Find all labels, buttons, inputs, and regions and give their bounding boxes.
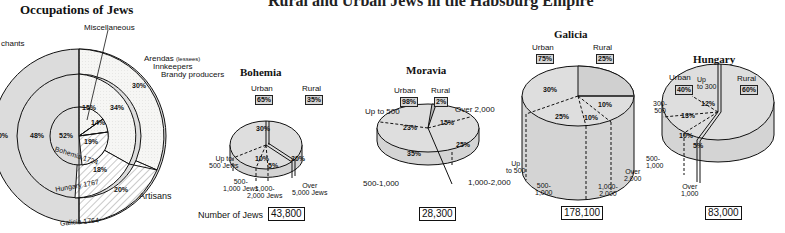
bohemia-rural-pct: 35% bbox=[305, 95, 323, 105]
moravia-label-500-1000: 500-1,000 bbox=[363, 180, 399, 188]
galicia-label-500-1000: 500-1,000 bbox=[535, 182, 553, 196]
moravia-slice-15: 15% bbox=[440, 119, 454, 126]
galicia-urban-pct: 75% bbox=[536, 54, 554, 64]
bohemia-label-1000-2000: 1,000-2,000 Jews bbox=[247, 185, 282, 199]
bohemia-title: Bohemia bbox=[240, 66, 282, 78]
hungary-rural-pct: 60% bbox=[740, 85, 758, 95]
galicia-slice-10a: 10% bbox=[598, 101, 612, 108]
moravia-label-1000-2000: 1,000-2,000 bbox=[468, 179, 511, 187]
galicia-slice-10b: 10% bbox=[584, 114, 598, 121]
moravia-label-upto500: Up to 500 bbox=[365, 108, 400, 116]
bohemia-slice-5: 5% bbox=[268, 162, 278, 169]
moravia-rural-pct: 2% bbox=[434, 97, 448, 107]
bohemia-label-over5000: Over5,000 Jews bbox=[292, 182, 327, 196]
hungary-slice-10: 10% bbox=[679, 132, 693, 139]
hungary-slice-12: 12% bbox=[701, 100, 715, 107]
galicia-slice-25: 25% bbox=[555, 113, 569, 120]
bohemia-slice-20: 20% bbox=[291, 155, 305, 162]
hungary-urban-label: Urban bbox=[669, 74, 691, 82]
moravia-title: Moravia bbox=[406, 64, 446, 76]
pct-outer-arendas: 30% bbox=[132, 82, 146, 89]
moravia-label-over2000: Over 2,000 bbox=[455, 106, 495, 114]
galicia-label-over2000: Over2,000 bbox=[624, 168, 642, 182]
galicia-number: 178,100 bbox=[561, 206, 603, 220]
pct-inner-arendas: 14% bbox=[91, 119, 105, 126]
moravia-slice-23: 23% bbox=[403, 124, 417, 131]
chart-graphics bbox=[0, 0, 785, 233]
pct-outer-artisans: 20% bbox=[114, 186, 128, 193]
galicia-label-upto500: Upto 500 bbox=[506, 160, 525, 174]
galicia-label-1000-2000: 1,000-2,000 bbox=[598, 183, 618, 197]
number-of-jews-label: Number of Jews bbox=[198, 210, 263, 220]
label-miscellaneous: Miscellaneous bbox=[84, 24, 135, 32]
pct-inner-misc: 15% bbox=[82, 104, 96, 111]
pct-middle-arendas: 34% bbox=[110, 104, 124, 111]
bohemia-slice-10: 10% bbox=[255, 155, 269, 162]
moravia-number: 28,300 bbox=[419, 207, 456, 221]
galicia-rural-label: Rural bbox=[593, 44, 612, 52]
label-merchants: chants bbox=[1, 40, 25, 48]
hungary-title: Hungary bbox=[693, 53, 735, 65]
pct-middle-merchants: 48% bbox=[30, 132, 44, 139]
hungary-slice-5: 5% bbox=[693, 142, 703, 149]
galicia-title: Galicia bbox=[554, 28, 588, 40]
bohemia-slice-30: 30% bbox=[256, 125, 270, 132]
hungary-slice-13: 13% bbox=[681, 112, 695, 119]
hungary-number: 83,000 bbox=[705, 206, 742, 220]
hungary-label-300-500: 300-500 bbox=[653, 100, 667, 114]
moravia-urban-label: Urban bbox=[394, 87, 416, 95]
bohemia-label-upto500: Up to500 Jews bbox=[209, 155, 239, 169]
pct-middle-artisans: 18% bbox=[93, 166, 107, 173]
top-title: Rural and Urban Jews in the Habsburg Emp… bbox=[268, 0, 594, 10]
galicia-slice-30: 30% bbox=[543, 86, 557, 93]
hungary-rural-label: Rural bbox=[737, 75, 756, 83]
moravia-slice-25: 25% bbox=[456, 141, 470, 148]
bohemia-urban-pct: 65% bbox=[255, 95, 273, 105]
hungary-label-500-1000: 500-1,000 bbox=[646, 155, 664, 169]
hungary-label-over1000: Over1,000 bbox=[681, 183, 699, 197]
hungary-urban-pct: 40% bbox=[675, 85, 693, 95]
label-brandy-producers: Brandy producers bbox=[161, 71, 224, 79]
moravia-urban-pct: 98% bbox=[400, 97, 418, 107]
pct-inner-artisans: 19% bbox=[84, 138, 98, 145]
pct-inner-merchants: 52% bbox=[59, 132, 73, 139]
galicia-urban-label: Urban bbox=[532, 44, 554, 52]
bohemia-number: 43,800 bbox=[268, 207, 305, 221]
moravia-slice-35: 35% bbox=[407, 150, 421, 157]
hungary-label-upto300: Upto 300 bbox=[697, 76, 716, 90]
bohemia-urban-label: Urban bbox=[251, 85, 273, 93]
moravia-rural-label: Rural bbox=[431, 87, 450, 95]
label-artisans: Artisans bbox=[139, 192, 172, 200]
bohemia-rural-label: Rural bbox=[302, 85, 321, 93]
galicia-rural-pct: 25% bbox=[596, 54, 614, 64]
galicia-cylinder bbox=[522, 66, 634, 200]
occupations-title: Occupations of Jews bbox=[20, 2, 133, 18]
pct-outer-merchants: 50% bbox=[0, 132, 8, 139]
